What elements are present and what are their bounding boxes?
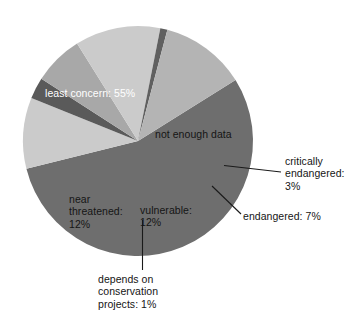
label-text-line-2: 12% — [140, 216, 192, 228]
label-text-line-2: conservation — [98, 285, 158, 297]
label-text-line-2: threatened: — [69, 205, 123, 217]
label-text: not enough data — [155, 128, 232, 140]
label-text-line-3: 3% — [285, 180, 345, 192]
slice-label-depends-on-conservation: depends on conservation projects: 1% — [98, 273, 158, 310]
slice-label-critically-endangered: critically endangered: 3% — [285, 155, 345, 192]
pie-slices — [23, 26, 253, 256]
slice-label-least-concern: least concern: 55% — [45, 87, 135, 99]
label-text-line-1: vulnerable: — [140, 204, 192, 216]
label-text: endangered: 7% — [243, 210, 321, 222]
slice-label-near-threatened: near threatened: 12% — [69, 193, 123, 230]
slice-label-not-enough-data: not enough data — [155, 128, 232, 140]
label-text-line-2: endangered: — [285, 167, 345, 179]
label-text-line-1: critically — [285, 155, 345, 167]
slice-label-endangered: endangered: 7% — [243, 210, 321, 222]
label-text-line-1: depends on — [98, 273, 158, 285]
label-text: least concern: 55% — [45, 87, 135, 99]
label-text-line-1: near — [69, 193, 123, 205]
label-text-line-3: projects: 1% — [98, 298, 158, 310]
label-text-line-3: 12% — [69, 218, 123, 230]
slice-label-vulnerable: vulnerable: 12% — [140, 204, 192, 229]
